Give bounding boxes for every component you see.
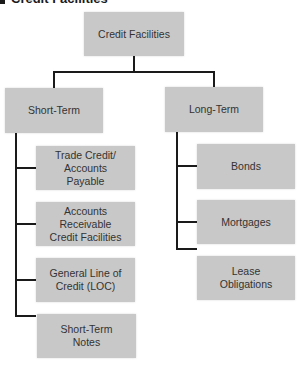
- long-term-tick-2: [176, 221, 197, 223]
- short-term-drop: [53, 71, 55, 88]
- accounts-receivable-node: Accounts Receivable Credit Facilities: [36, 202, 135, 246]
- long-term-spine: [176, 132, 178, 250]
- long-term-tick-3: [176, 248, 197, 250]
- long-term-drop: [213, 71, 215, 87]
- long-term-tick-1: [176, 165, 197, 167]
- short-term-node: Short-Term: [5, 88, 103, 133]
- short-term-tick-4: [15, 315, 36, 317]
- bonds-node: Bonds: [197, 144, 295, 189]
- short-term-tick-2: [15, 223, 36, 225]
- root-node: Credit Facilities: [84, 12, 184, 56]
- short-term-notes-node: Short-Term Notes: [37, 314, 136, 358]
- branch-bar: [53, 71, 215, 73]
- short-term-tick-1: [15, 167, 36, 169]
- mortgages-node: Mortgages: [197, 200, 295, 244]
- root-connector: [133, 56, 135, 72]
- short-term-tick-3: [15, 279, 36, 281]
- long-term-node: Long-Term: [165, 87, 263, 132]
- general-loc-node: General Line of Credit (LOC): [36, 258, 135, 302]
- section-header: Credit Facilities: [0, 0, 108, 5]
- trade-credit-node: Trade Credit/ Accounts Payable: [36, 146, 135, 190]
- header-marker: [0, 0, 5, 4]
- lease-obligations-node: Lease Obligations: [197, 256, 295, 300]
- header-title: Credit Facilities: [11, 0, 108, 6]
